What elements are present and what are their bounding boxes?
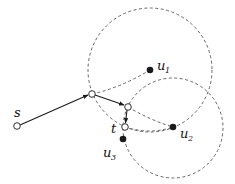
node-t [122, 124, 129, 131]
node-u2 [170, 124, 177, 131]
node-u3 [120, 136, 127, 143]
diagram-canvas: s t u 1 u 2 u 3 [0, 0, 235, 184]
dashed-edge-t-u2 [125, 127, 173, 131]
node-u1 [147, 67, 154, 74]
node-b [125, 104, 132, 111]
label-u2-sub: 2 [187, 134, 193, 143]
node-a [89, 91, 96, 98]
label-t: t [111, 121, 117, 136]
label-u3-sub: 3 [111, 153, 116, 162]
arrow-s-a [20, 95, 88, 125]
dashed-edge-a-u1 [92, 70, 150, 94]
label-u1-sub: 1 [165, 66, 170, 75]
arrow-a-b [95, 95, 124, 105]
label-s: s [14, 105, 21, 120]
dashed-edge-b-u2 [128, 107, 173, 127]
node-s [14, 123, 21, 130]
